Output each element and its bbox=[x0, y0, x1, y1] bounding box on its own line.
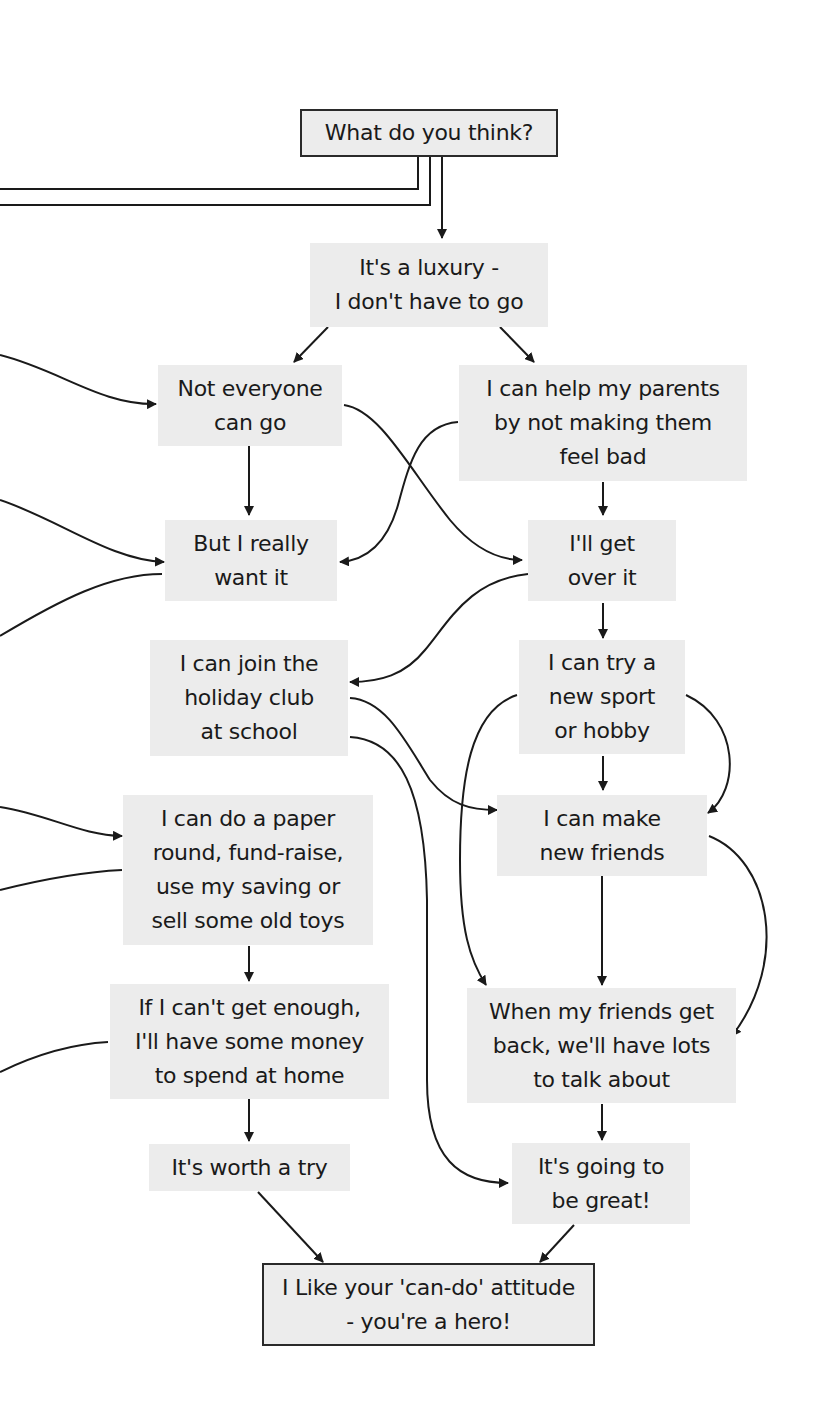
node-new-sport-line-2: new sport bbox=[549, 680, 655, 714]
node-going-great-line-1: It's going to bbox=[538, 1150, 664, 1184]
node-luxury-line-1: It's a luxury - bbox=[359, 251, 499, 285]
edge-holiday-club-make-friends bbox=[350, 698, 497, 810]
node-worth-try-line-1: It's worth a try bbox=[171, 1151, 327, 1185]
node-really-want-line-2: want it bbox=[214, 561, 288, 595]
node-new-sport-line-3: or hobby bbox=[554, 714, 649, 748]
edge-out-left-3 bbox=[0, 574, 162, 636]
node-talk-about: When my friends get back, we'll have lot… bbox=[467, 988, 736, 1103]
connector-lines bbox=[0, 0, 824, 1413]
node-paper-round-line-4: sell some old toys bbox=[152, 904, 345, 938]
node-paper-round-line-1: I can do a paper bbox=[161, 802, 335, 836]
node-help-parents-line-1: I can help my parents bbox=[486, 372, 719, 406]
node-get-over-line-2: over it bbox=[568, 561, 637, 595]
edge-in-left-4 bbox=[0, 807, 122, 836]
node-not-everyone-line-2: can go bbox=[214, 406, 286, 440]
node-holiday-club-line-3: at school bbox=[201, 715, 298, 749]
node-make-friends-line-2: new friends bbox=[540, 836, 665, 870]
edge-in-left-1 bbox=[0, 355, 156, 404]
node-end: I Like your 'can-do' attitude - you're a… bbox=[262, 1263, 595, 1346]
node-holiday-club-line-2: holiday club bbox=[184, 681, 314, 715]
node-start: What do you think? bbox=[300, 109, 558, 157]
node-not-everyone: Not everyone can go bbox=[158, 365, 342, 446]
node-help-parents-line-3: feel bad bbox=[560, 440, 647, 474]
node-luxury: It's a luxury - I don't have to go bbox=[310, 243, 548, 327]
node-paper-round-line-3: use my saving or bbox=[156, 870, 340, 904]
edge-get-over-holiday-club bbox=[350, 574, 528, 682]
edge-holiday-club-going-great bbox=[350, 737, 508, 1183]
node-cant-enough-line-3: to spend at home bbox=[155, 1059, 345, 1093]
edge-in-left-2 bbox=[0, 500, 164, 562]
node-paper-round-line-2: round, fund-raise, bbox=[153, 836, 344, 870]
node-get-over-line-1: I'll get bbox=[569, 527, 634, 561]
edge-going-great-end bbox=[540, 1225, 574, 1262]
node-make-friends: I can make new friends bbox=[497, 795, 707, 876]
edge-out-left-5 bbox=[0, 870, 122, 890]
node-help-parents-line-2: by not making them bbox=[494, 406, 712, 440]
start-exit-line-2 bbox=[0, 157, 430, 205]
node-new-sport-line-1: I can try a bbox=[548, 646, 656, 680]
node-not-everyone-line-1: Not everyone bbox=[177, 372, 322, 406]
node-really-want: But I really want it bbox=[165, 520, 337, 601]
node-going-great-line-2: be great! bbox=[552, 1184, 651, 1218]
edge-help-parents-really-want bbox=[340, 422, 458, 562]
node-cant-enough: If I can't get enough, I'll have some mo… bbox=[110, 984, 389, 1099]
edge-luxury-help-parents bbox=[500, 327, 534, 362]
node-worth-try: It's worth a try bbox=[149, 1144, 350, 1191]
node-paper-round: I can do a paper round, fund-raise, use … bbox=[123, 795, 373, 945]
node-start-line-1: What do you think? bbox=[325, 116, 533, 150]
node-get-over: I'll get over it bbox=[528, 520, 676, 601]
node-make-friends-line-1: I can make bbox=[543, 802, 660, 836]
node-really-want-line-1: But I really bbox=[193, 527, 308, 561]
node-new-sport: I can try a new sport or hobby bbox=[519, 640, 685, 754]
node-talk-about-line-2: back, we'll have lots bbox=[493, 1029, 710, 1063]
node-talk-about-line-3: to talk about bbox=[533, 1063, 670, 1097]
node-holiday-club: I can join the holiday club at school bbox=[150, 640, 348, 756]
start-exit-line-1 bbox=[0, 157, 418, 189]
node-cant-enough-line-1: If I can't get enough, bbox=[138, 991, 360, 1025]
node-end-line-1: I Like your 'can-do' attitude bbox=[282, 1271, 575, 1305]
node-luxury-line-2: I don't have to go bbox=[335, 285, 524, 319]
edge-out-left-6 bbox=[0, 1042, 108, 1072]
node-help-parents: I can help my parents by not making them… bbox=[459, 365, 747, 481]
node-cant-enough-line-2: I'll have some money bbox=[135, 1025, 364, 1059]
edge-worth-try-end bbox=[258, 1192, 323, 1262]
node-end-line-2: - you're a hero! bbox=[346, 1305, 511, 1339]
node-holiday-club-line-1: I can join the bbox=[180, 647, 319, 681]
node-going-great: It's going to be great! bbox=[512, 1143, 690, 1224]
node-talk-about-line-1: When my friends get bbox=[489, 995, 714, 1029]
edge-luxury-not-everyone bbox=[294, 327, 328, 362]
